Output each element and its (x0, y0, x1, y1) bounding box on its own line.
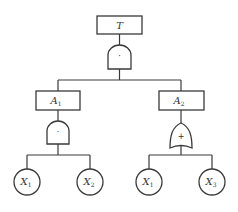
and-gate-icon: · (108, 45, 131, 69)
and-gate-icon: · (47, 121, 69, 144)
basic-event-X1-left: X1 (14, 169, 40, 195)
and-gate-symbol: · (118, 52, 121, 61)
or-gate-icon: + (170, 123, 192, 148)
basic-event-X2: X2 (77, 169, 103, 195)
fault-tree-diagram: T · A1 A2 · + X1 X2 (0, 0, 238, 212)
or-gate-symbol: + (178, 132, 185, 141)
top-event-T: T (97, 16, 142, 34)
basic-event-X1-right: X1 (136, 169, 162, 195)
intermediate-event-A2: A2 (159, 91, 204, 110)
intermediate-event-A1: A1 (36, 91, 80, 110)
and-gate-symbol: · (57, 128, 60, 137)
basic-event-X3: X3 (199, 169, 225, 195)
